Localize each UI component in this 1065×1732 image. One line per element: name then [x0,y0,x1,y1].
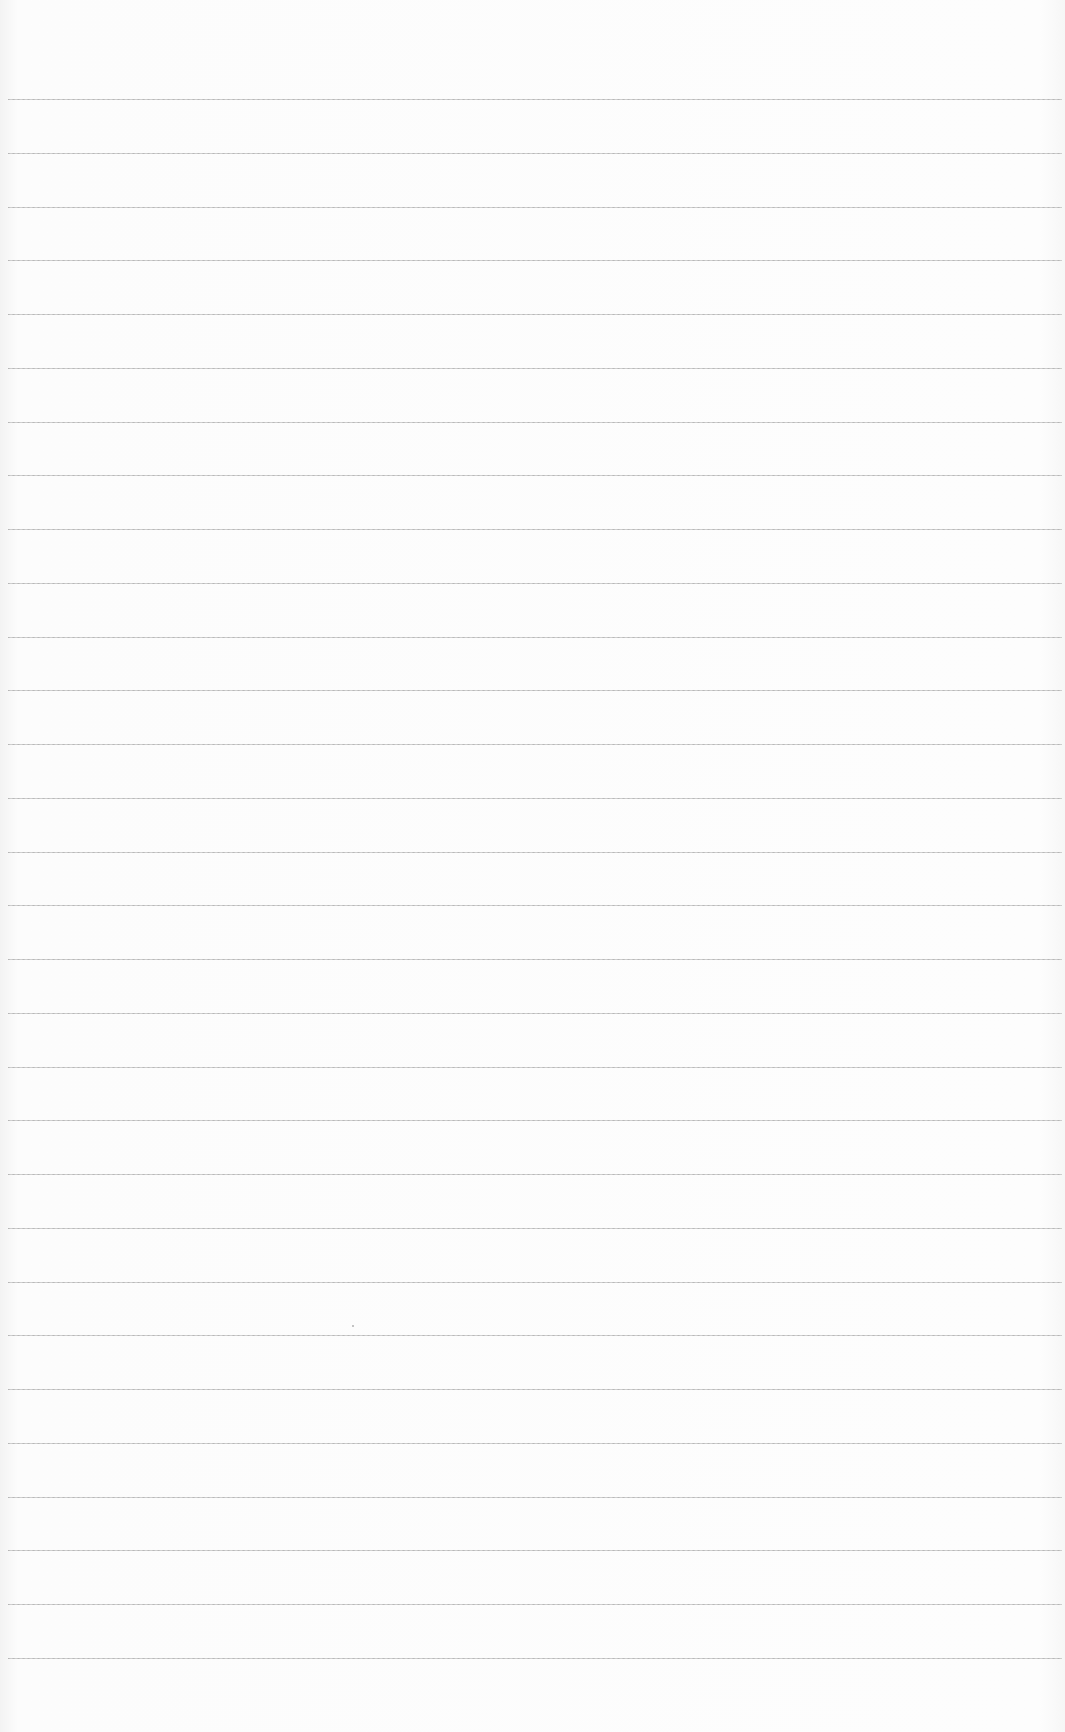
ruled-line [8,852,1062,853]
ruled-line [8,690,1062,691]
ruled-line [8,153,1062,154]
ruled-line [8,744,1062,745]
ruled-line [8,583,1062,584]
ruled-line [8,798,1062,799]
ruled-line [8,207,1062,208]
ruled-line [8,905,1062,906]
bleed-through-text-top [20,2,1045,57]
ruled-line [8,1335,1062,1336]
bleed-through-text-bottom [20,1672,1045,1727]
ruled-line [8,260,1062,261]
ruled-line [8,1658,1062,1659]
ruled-line [8,1550,1062,1551]
ruled-line [8,1389,1062,1390]
ruled-line [8,529,1062,530]
ruled-line [8,368,1062,369]
ruled-line [8,1604,1062,1605]
ruled-line [8,475,1062,476]
ruled-line [8,1067,1062,1068]
ruled-line [8,1497,1062,1498]
ruled-line [8,959,1062,960]
ruled-line [8,314,1062,315]
ruled-paper-sheet [0,0,1065,1732]
ruled-line [8,637,1062,638]
ruled-line [8,1228,1062,1229]
ruled-line [8,1013,1062,1014]
ruled-line [8,422,1062,423]
ruled-line [8,1174,1062,1175]
ruled-line [8,1120,1062,1121]
ruled-line [8,1443,1062,1444]
ruled-line [8,99,1062,100]
ruled-line [8,1282,1062,1283]
stray-dot [352,1325,354,1327]
